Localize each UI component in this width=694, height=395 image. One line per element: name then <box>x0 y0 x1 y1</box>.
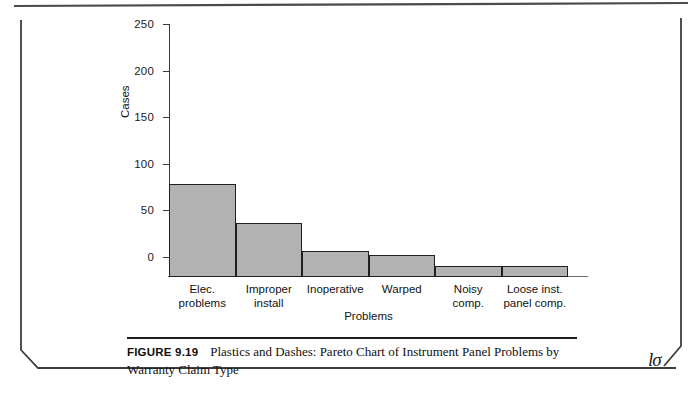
bar-noisy-comp <box>435 266 502 277</box>
x-label-improper-install: Improper install <box>231 277 307 310</box>
x-label-line-2: comp. <box>430 297 506 311</box>
caption-rule <box>127 337 577 339</box>
x-label-loose-inst-panel-comp: Loose inst. panel comp. <box>497 277 573 310</box>
x-label-line-1: Warped <box>364 283 440 297</box>
x-axis-title: Problems <box>169 310 568 322</box>
x-label-line-1: Loose inst. <box>497 283 573 297</box>
bar-improper-install <box>236 223 303 277</box>
bar-series <box>169 24 568 277</box>
y-tick-label-100: 100 <box>134 158 154 170</box>
x-label-elec-problems: Elec. problems <box>164 277 240 310</box>
y-tick-label-150: 150 <box>134 111 154 123</box>
figure-caption: FIGURE 9.19Plastics and Dashes: Pareto C… <box>127 343 597 378</box>
x-category-labels: Elec. problems Improper install Inoperat… <box>169 277 568 313</box>
x-label-line-2: panel comp. <box>497 297 573 311</box>
y-tick-label-0: 0 <box>147 251 154 263</box>
y-tick-label-200: 200 <box>134 65 154 77</box>
x-label-noisy-comp: Noisy comp. <box>430 277 506 310</box>
x-label-line-1: Elec. <box>164 283 240 297</box>
x-label-line-1: Noisy <box>430 283 506 297</box>
bar-inoperative <box>302 251 369 277</box>
x-label-line-1: Inoperative <box>297 283 373 297</box>
bar-loose-inst-panel-comp <box>502 266 569 277</box>
publisher-logo-mark: lσ <box>648 349 661 371</box>
x-label-inoperative: Inoperative <box>297 277 373 297</box>
figure-block: Cases 0 50 100 150 200 250 <box>0 0 694 395</box>
x-label-line-2: problems <box>164 297 240 311</box>
bar-elec-problems <box>169 184 236 277</box>
y-tick-label-50: 50 <box>141 204 154 216</box>
x-label-line-2: install <box>231 297 307 311</box>
x-label-line-1: Improper <box>231 283 307 297</box>
pareto-chart-plot: 0 50 100 150 200 250 Elec. proble <box>169 24 568 277</box>
y-tick-label-250: 250 <box>134 18 154 30</box>
y-axis-title: Cases <box>119 85 131 118</box>
bar-warped <box>369 255 436 277</box>
figure-number-label: FIGURE 9.19 <box>127 346 198 358</box>
x-label-warped: Warped <box>364 277 440 297</box>
